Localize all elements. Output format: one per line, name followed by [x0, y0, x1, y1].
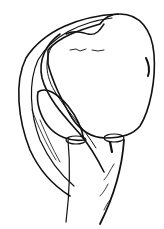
- tendon-bands: [19, 14, 118, 196]
- illustration-canvas: [0, 0, 164, 229]
- humeral-shaft: [66, 140, 124, 224]
- anatomical-drawing: [0, 0, 164, 229]
- humeral-head: [48, 14, 154, 138]
